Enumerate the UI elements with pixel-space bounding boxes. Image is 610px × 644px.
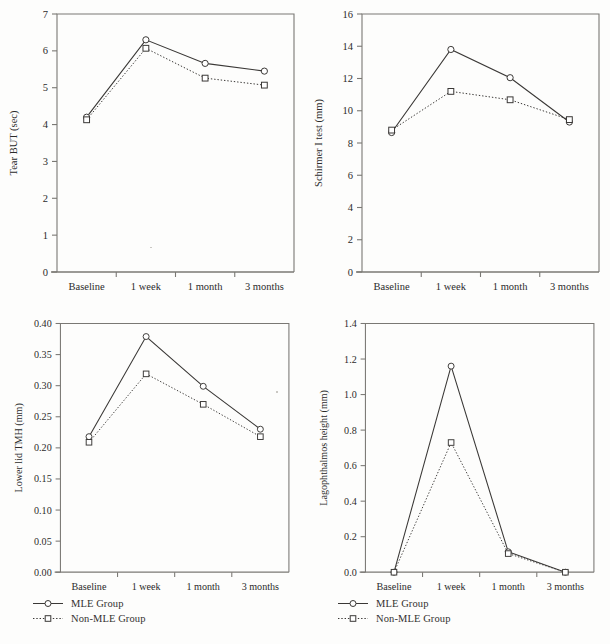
- circle-marker: [202, 60, 208, 66]
- y-axis-tick-label: 4: [43, 119, 49, 130]
- square-marker: [202, 75, 208, 81]
- x-axis-tick-label: 1 week: [131, 281, 162, 292]
- y-axis-tick-label: 4: [348, 202, 354, 213]
- chart-panel-lagophthalmos-height: 0.00.20.40.60.81.01.21.4Baseline1 week1 …: [305, 310, 610, 632]
- square-marker: [143, 45, 149, 51]
- y-axis-tick-label: 1.0: [344, 389, 357, 400]
- circle-marker: [350, 601, 356, 607]
- y-axis-tick-label: 0.00: [34, 567, 52, 578]
- chart-svg-schirmer-i-test: 0246810121416Baseline1 week1 month3 mont…: [305, 0, 610, 322]
- x-axis-tick-label: 3 months: [547, 581, 584, 592]
- y-axis-title: Schirmer I test (mm): [313, 99, 325, 187]
- legend-item-label: Non-MLE Group: [71, 612, 146, 626]
- y-axis-tick-label: 12: [343, 73, 354, 84]
- y-axis-tick-label: 10: [343, 105, 354, 116]
- square-marker: [143, 371, 149, 377]
- square-marker: [389, 127, 395, 133]
- y-axis-tick-label: 0.05: [34, 536, 52, 547]
- x-axis-tick-label: 1 week: [132, 581, 162, 592]
- chart-svg-lagophthalmos-height: 0.00.20.40.60.81.01.21.4Baseline1 week1 …: [305, 310, 610, 632]
- y-axis-tick-label: 16: [343, 9, 354, 20]
- y-axis-tick-label: 0.2: [344, 531, 357, 542]
- x-axis-tick-label: 1 week: [436, 281, 467, 292]
- y-axis-tick-label: 0.0: [344, 567, 357, 578]
- legend-key-circle-marker: [337, 597, 369, 610]
- x-axis-tick-label: 1 month: [188, 281, 223, 292]
- legend-item-label: MLE Group: [376, 597, 429, 611]
- square-marker: [261, 82, 267, 88]
- legend-item: Non-MLE Group: [32, 611, 146, 626]
- legend-item-label: MLE Group: [71, 597, 124, 611]
- circle-marker: [261, 68, 267, 74]
- x-axis-tick-label: Baseline: [377, 581, 412, 592]
- legend-lagophthalmos-height: MLE Group Non-MLE Group: [337, 596, 451, 626]
- circle-marker: [507, 75, 513, 81]
- y-axis-tick-label: 0.4: [344, 496, 357, 507]
- y-axis-tick-label: 0: [43, 267, 48, 278]
- y-axis-tick-label: 2: [348, 234, 353, 245]
- x-axis-tick-label: 3 months: [242, 581, 279, 592]
- square-marker: [84, 117, 90, 123]
- y-axis-tick-label: 7: [43, 9, 48, 20]
- series-line: [394, 366, 565, 572]
- legend-lower-lid-tmh: MLE Group Non-MLE Group: [32, 596, 146, 626]
- legend-key-square-marker: [337, 612, 369, 625]
- y-axis-tick-label: 6: [43, 45, 48, 56]
- x-axis-tick-label: 3 months: [550, 281, 589, 292]
- y-axis-tick-label: 14: [343, 41, 354, 52]
- circle-marker: [143, 37, 149, 43]
- y-axis-tick-label: 6: [348, 170, 353, 181]
- x-axis-tick-label: 1 week: [437, 581, 467, 592]
- x-axis-tick-label: 1 month: [187, 581, 220, 592]
- y-axis-title: Lower lid TMH (mm): [13, 403, 25, 492]
- square-marker: [563, 569, 569, 575]
- y-axis-tick-label: 5: [43, 82, 48, 93]
- x-axis-tick-label: Baseline: [374, 281, 410, 292]
- circle-marker: [200, 383, 206, 389]
- x-axis-tick-label: 3 months: [245, 281, 284, 292]
- series-line: [394, 443, 565, 573]
- legend-item: Non-MLE Group: [337, 611, 451, 626]
- square-marker: [200, 402, 206, 408]
- y-axis-tick-label: 8: [348, 138, 353, 149]
- legend-key-circle-marker: [32, 597, 64, 610]
- circle-marker: [45, 601, 51, 607]
- chart-svg-tear-but: 01234567Baseline1 week1 month3 monthsTea…: [0, 0, 305, 322]
- legend-item: MLE Group: [337, 596, 451, 611]
- series-line: [87, 40, 265, 117]
- square-marker: [45, 616, 51, 622]
- y-axis-tick-label: 1.2: [344, 354, 357, 365]
- y-axis-tick-label: 0.6: [344, 460, 357, 471]
- series-line: [392, 91, 570, 130]
- y-axis-tick-label: 0.10: [34, 505, 52, 516]
- chart-svg-lower-lid-tmh: 0.000.050.100.150.200.250.300.350.40Base…: [0, 310, 305, 632]
- x-axis-tick-label: 1 month: [493, 281, 528, 292]
- legend-item-label: Non-MLE Group: [376, 612, 451, 626]
- square-marker: [566, 117, 572, 123]
- circle-marker: [448, 46, 454, 52]
- circle-marker: [448, 363, 454, 369]
- y-axis-tick-label: 1.4: [344, 318, 357, 329]
- y-axis-tick-label: 0.25: [34, 411, 52, 422]
- y-axis-title: Lagophthalmos height (mm): [318, 390, 330, 506]
- square-marker: [391, 569, 397, 575]
- figure-page: 01234567Baseline1 week1 month3 monthsTea…: [0, 0, 610, 644]
- y-axis-tick-label: 1: [43, 230, 48, 241]
- legend-key-square-marker: [32, 612, 64, 625]
- x-axis-tick-label: 1 month: [492, 581, 525, 592]
- square-marker: [86, 439, 92, 445]
- y-axis-tick-label: 2: [43, 193, 48, 204]
- y-axis-tick-label: 0.40: [34, 318, 52, 329]
- square-marker: [258, 434, 264, 440]
- series-line: [89, 374, 260, 442]
- y-axis-tick-label: 0.20: [34, 442, 52, 453]
- series-line: [89, 337, 260, 437]
- series-line: [87, 48, 265, 120]
- square-marker: [448, 89, 454, 95]
- series-line: [392, 49, 570, 132]
- y-axis-title: Tear BUT (sec): [8, 110, 20, 175]
- x-axis-tick-label: Baseline: [69, 281, 105, 292]
- circle-marker: [257, 426, 263, 432]
- square-marker: [448, 440, 454, 446]
- x-axis-tick-label: Baseline: [72, 581, 107, 592]
